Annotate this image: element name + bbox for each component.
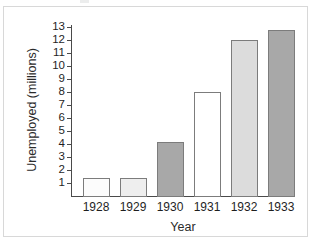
y-tick-label-10: 10 — [43, 60, 65, 71]
x-tick-label-1930: 1930 — [150, 200, 190, 214]
y-tick-9 — [67, 79, 72, 80]
y-tick-12 — [67, 40, 72, 41]
x-tick-label-1932: 1932 — [224, 200, 264, 214]
y-tick-label-8: 8 — [43, 86, 65, 97]
y-tick-label-6: 6 — [43, 112, 65, 123]
y-tick-2 — [67, 170, 72, 171]
y-tick-label-5: 5 — [43, 125, 65, 136]
chart-figure: Unemployed (millions) 1 2 3 4 5 6 7 8 9 … — [0, 0, 312, 247]
bar-1930 — [157, 142, 184, 197]
y-tick-label-2: 2 — [43, 164, 65, 175]
y-tick-13 — [67, 27, 72, 28]
x-tick-label-1931: 1931 — [187, 200, 227, 214]
bar-1928 — [83, 178, 110, 197]
y-tick-label-13: 13 — [43, 21, 65, 32]
y-tick-label-11: 11 — [43, 47, 65, 58]
y-tick-label-1: 1 — [43, 177, 65, 188]
y-tick-11 — [67, 53, 72, 54]
x-axis-title: Year — [71, 220, 295, 234]
y-tick-label-3: 3 — [43, 151, 65, 162]
y-tick-label-7: 7 — [43, 99, 65, 110]
y-tick-7 — [67, 105, 72, 106]
x-tick-label-1933: 1933 — [261, 200, 301, 214]
y-tick-label-4: 4 — [43, 138, 65, 149]
x-tick-label-1928: 1928 — [76, 200, 116, 214]
y-tick-8 — [67, 92, 72, 93]
bar-1933 — [268, 30, 295, 197]
bar-1932 — [231, 40, 258, 197]
y-tick-10 — [67, 66, 72, 67]
bar-1929 — [120, 178, 147, 197]
y-tick-label-12: 12 — [43, 34, 65, 45]
y-tick-1 — [67, 183, 72, 184]
y-tick-3 — [67, 157, 72, 158]
y-tick-label-9: 9 — [43, 73, 65, 84]
plot-area: 1 2 3 4 5 6 7 8 9 10 11 12 13 1928 1929 — [0, 0, 312, 247]
y-tick-5 — [67, 131, 72, 132]
y-tick-6 — [67, 118, 72, 119]
bar-1931 — [194, 92, 221, 197]
y-axis-line — [71, 25, 72, 197]
y-tick-4 — [67, 144, 72, 145]
x-tick-label-1929: 1929 — [113, 200, 153, 214]
